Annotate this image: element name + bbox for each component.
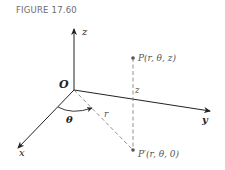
point-p: [131, 56, 135, 60]
point-p-label: P(r, θ, z): [137, 53, 176, 63]
z-axis-label: z: [81, 26, 88, 37]
height-z-label: z: [134, 85, 140, 95]
point-p-prime: [131, 148, 135, 152]
y-axis-label: y: [201, 114, 209, 125]
r-label: r: [104, 109, 109, 119]
theta-arc: [58, 107, 92, 111]
x-axis-label: x: [19, 147, 25, 158]
point-p-prime-label: P′(r, θ, 0): [137, 149, 180, 159]
radius-dashed-line: [74, 90, 133, 150]
origin-label: O: [59, 78, 69, 91]
cylindrical-coordinates-diagram: z y x O θ r z P(r, θ, z) P′(r, θ, 0): [0, 0, 225, 170]
y-axis: [74, 90, 210, 111]
theta-label: θ: [66, 114, 73, 125]
